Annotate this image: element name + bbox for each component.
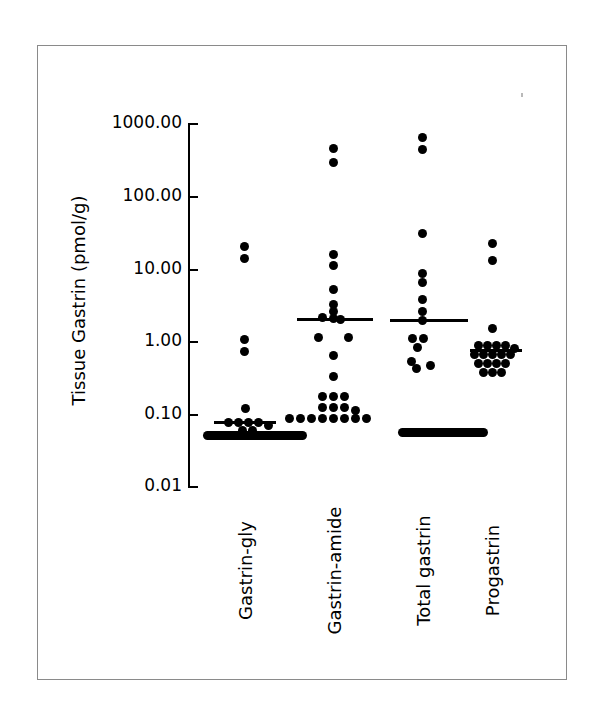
data-point xyxy=(329,261,338,270)
data-point xyxy=(285,414,294,423)
y-tick-label-10: 10.00 xyxy=(82,260,182,277)
data-point xyxy=(483,359,492,368)
data-point xyxy=(470,350,479,359)
scan-artifact-speck xyxy=(521,93,523,97)
data-point xyxy=(501,341,510,350)
data-point xyxy=(492,341,501,350)
data-point xyxy=(497,350,506,359)
data-point xyxy=(351,414,360,423)
data-point xyxy=(314,333,323,342)
data-point xyxy=(329,403,338,412)
y-axis-title: Tissue Gastrin (pmol/g) xyxy=(68,171,89,431)
dense-cluster-total-gastrin xyxy=(398,428,488,437)
data-point xyxy=(483,341,492,350)
data-point xyxy=(419,334,428,343)
y-tick-1000 xyxy=(188,123,198,125)
x-category-label-gastrin-gly: Gastrin-gly xyxy=(235,471,256,671)
x-category-label-gastrin-amide: Gastrin-amide xyxy=(324,471,345,671)
data-point xyxy=(506,350,515,359)
data-point xyxy=(240,335,249,344)
data-point xyxy=(492,359,501,368)
data-point xyxy=(418,316,427,325)
data-point xyxy=(329,144,338,153)
data-point xyxy=(497,368,506,377)
data-point xyxy=(240,254,249,263)
data-point xyxy=(418,133,427,142)
data-point xyxy=(418,145,427,154)
x-category-label-total-gastrin: Total gastrin xyxy=(413,471,434,671)
data-point xyxy=(254,418,263,427)
data-point xyxy=(418,295,427,304)
data-point xyxy=(329,158,338,167)
data-point xyxy=(318,403,327,412)
data-point xyxy=(501,359,510,368)
data-point xyxy=(418,229,427,238)
median-bar-total-gastrin xyxy=(390,319,468,322)
data-point xyxy=(329,351,338,360)
data-point xyxy=(474,341,483,350)
x-category-label-progastrin: Progastrin xyxy=(482,471,503,671)
y-tick-0.1 xyxy=(188,414,198,416)
data-point xyxy=(408,334,417,343)
data-point xyxy=(318,392,327,401)
data-point xyxy=(479,368,488,377)
y-axis-line xyxy=(188,123,190,488)
y-tick-label-0.01: 0.01 xyxy=(82,477,182,494)
data-point xyxy=(329,414,338,423)
data-point xyxy=(344,333,353,342)
y-tick-label-1: 1.00 xyxy=(82,332,182,349)
data-point xyxy=(418,278,427,287)
data-point xyxy=(241,404,250,413)
data-point xyxy=(336,315,345,324)
data-point xyxy=(413,343,422,352)
data-point xyxy=(479,350,488,359)
data-point xyxy=(488,324,497,333)
data-point xyxy=(248,426,257,435)
y-tick-label-1000: 1000.00 xyxy=(82,114,182,131)
data-point xyxy=(307,414,316,423)
data-point xyxy=(329,392,338,401)
data-point xyxy=(240,347,249,356)
data-point xyxy=(329,372,338,381)
data-point xyxy=(329,285,338,294)
data-point xyxy=(488,239,497,248)
data-point xyxy=(488,368,497,377)
data-point xyxy=(426,361,435,370)
data-point xyxy=(340,403,349,412)
data-point xyxy=(296,414,305,423)
figure-root: 1000.00 100.00 10.00 1.00 0.10 0.01 Tiss… xyxy=(0,0,594,715)
data-point xyxy=(362,414,371,423)
data-point xyxy=(418,307,427,316)
y-tick-label-0.1: 0.10 xyxy=(82,405,182,422)
y-tick-100 xyxy=(188,196,198,198)
data-point xyxy=(488,256,497,265)
data-point xyxy=(240,242,249,251)
data-point xyxy=(264,421,273,430)
plot-area: 1000.00 100.00 10.00 1.00 0.10 0.01 Tiss… xyxy=(0,0,594,715)
data-point xyxy=(340,414,349,423)
data-point xyxy=(318,414,327,423)
data-point xyxy=(474,359,483,368)
y-tick-0.01 xyxy=(188,486,198,488)
data-point xyxy=(488,350,497,359)
y-tick-label-100: 100.00 xyxy=(82,187,182,204)
data-point xyxy=(329,250,338,259)
y-tick-1 xyxy=(188,341,198,343)
data-point xyxy=(318,313,327,322)
data-point xyxy=(418,269,427,278)
data-point xyxy=(224,418,233,427)
y-tick-10 xyxy=(188,269,198,271)
data-point xyxy=(238,426,247,435)
data-point xyxy=(340,392,349,401)
data-point xyxy=(412,364,421,373)
